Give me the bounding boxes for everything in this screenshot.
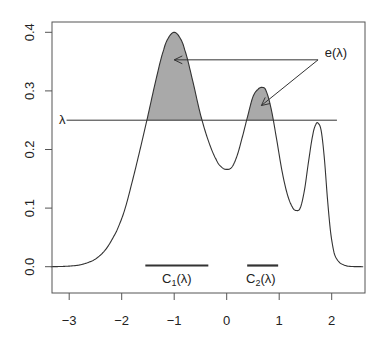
c2-main: C <box>246 271 255 286</box>
shaded-region-1 <box>145 32 203 120</box>
y-tick-label: 0.0 <box>22 258 37 276</box>
c2-lambda-label: C2(λ) <box>246 271 276 288</box>
e-lambda-label: e(λ) <box>325 45 347 60</box>
c1-main: C <box>162 271 171 286</box>
density-chart: λ −3−2−1012 0.00.10.20.30.4 e(λ) C1(λ) C… <box>0 0 384 342</box>
c2-tail: (λ) <box>260 271 275 286</box>
c1-tail: (λ) <box>176 271 191 286</box>
x-tick-label: −1 <box>167 313 182 328</box>
y-tick-label: 0.2 <box>22 140 37 158</box>
arrow-shaft <box>261 60 318 106</box>
y-tick-label: 0.4 <box>22 23 37 41</box>
y-axis: 0.00.10.20.30.4 <box>22 23 52 275</box>
plot-frame <box>52 22 365 293</box>
y-tick-label: 0.3 <box>22 82 37 100</box>
x-axis: −3−2−1012 <box>62 293 336 328</box>
shaded-region-2 <box>247 87 276 120</box>
c1-lambda-label: C1(λ) <box>162 271 192 288</box>
x-tick-label: 1 <box>276 313 283 328</box>
density-curve <box>51 32 363 266</box>
x-tick-label: −3 <box>62 313 77 328</box>
y-tick-label: 0.1 <box>22 199 37 217</box>
x-tick-label: −2 <box>114 313 129 328</box>
lambda-label: λ <box>59 112 66 127</box>
x-tick-label: 2 <box>328 313 335 328</box>
x-tick-label: 0 <box>223 313 230 328</box>
